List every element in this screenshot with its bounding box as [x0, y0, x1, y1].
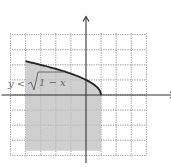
- label-lhs: y <: [7, 78, 25, 89]
- label-radicand: 1 − x: [39, 77, 66, 88]
- inequality-graph: y < 1 − x: [0, 0, 171, 167]
